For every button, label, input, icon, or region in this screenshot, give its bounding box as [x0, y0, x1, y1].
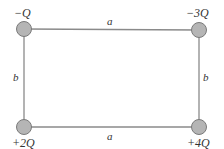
- side-top: [24, 29, 199, 30]
- charge-bottom-left: [17, 120, 32, 135]
- charge-top-right: [192, 23, 207, 38]
- label-side-top: a: [107, 15, 113, 27]
- charge-bottom-right: [192, 120, 207, 135]
- label-side-left: b: [13, 71, 19, 83]
- label-side-right: b: [203, 71, 209, 83]
- label-bottom-right: +4Q: [187, 136, 210, 149]
- label-side-bottom: a: [107, 130, 113, 142]
- charge-top-left: [17, 22, 32, 37]
- label-top-left: −Q: [14, 6, 31, 20]
- charge-rectangle-diagram: −Q −3Q +2Q +4Q a a b b: [0, 0, 224, 149]
- label-top-right: −3Q: [186, 6, 209, 20]
- label-bottom-left: +2Q: [12, 136, 35, 149]
